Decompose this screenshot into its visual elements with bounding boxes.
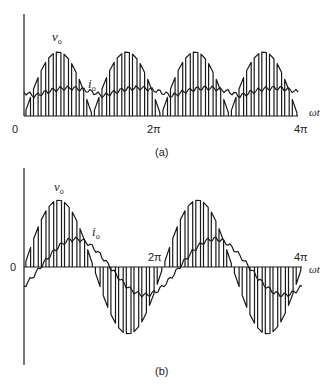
fig-b-tick-2pi: 2π: [148, 252, 162, 263]
fig-b-x-axis-label: ωt: [309, 264, 320, 275]
fig-b-io-label: io: [92, 225, 100, 241]
pwm-waveform-diagram: [0, 0, 330, 385]
fig-a-io-label: io: [88, 77, 96, 93]
fig-a-tick-4pi: 4π: [294, 124, 308, 135]
fig-a-io-curve: [24, 86, 298, 98]
fig-a-tick-2pi: 2π: [147, 124, 161, 135]
fig-b-tick-4pi: 4π: [294, 252, 308, 263]
fig-a-vo-label: vo: [52, 30, 62, 46]
fig-a-origin-label: 0: [12, 124, 18, 135]
fig-a-vo-pulses: [26, 52, 297, 116]
fig-b-vo-label: vo: [54, 180, 64, 196]
fig-b-origin-label: 0: [10, 262, 16, 273]
fig-a-x-axis-label: ωt: [309, 107, 320, 118]
fig-a-caption: (a): [155, 147, 168, 158]
fig-b-caption: (b): [155, 366, 168, 377]
